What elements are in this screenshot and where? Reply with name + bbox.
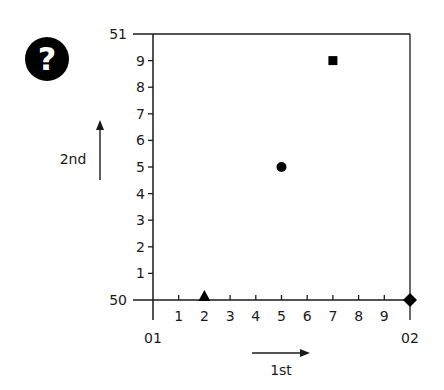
triangle-marker: [198, 290, 210, 301]
data-points: [198, 56, 417, 307]
chart: ? 5012345678951 0112345678902 2nd 1st: [0, 0, 444, 390]
x-axis-label-group: 1st: [252, 349, 310, 378]
y-tick-label: 5: [136, 159, 145, 175]
right-arrow-icon: [300, 349, 310, 357]
square-marker: [328, 56, 337, 65]
x-tick-label: 1: [174, 308, 183, 324]
x-tick-label: 7: [328, 308, 337, 324]
up-arrow-icon: [96, 120, 104, 130]
y-tick-label: 4: [136, 186, 145, 202]
y-tick-label: 3: [136, 212, 145, 228]
x-axis-label: 1st: [270, 362, 292, 378]
y-tick-label: 6: [136, 132, 145, 148]
x-tick-label: 02: [401, 330, 419, 346]
question-badge: ?: [25, 37, 69, 81]
y-tick-label: 1: [136, 265, 145, 281]
y-tick-label: 51: [109, 26, 127, 42]
x-tick-label: 4: [251, 308, 260, 324]
y-axis-label: 2nd: [60, 151, 87, 167]
x-tick-label: 9: [380, 308, 389, 324]
question-mark-glyph: ?: [38, 40, 57, 78]
plot-frame: [133, 34, 410, 320]
x-tick-label: 5: [277, 308, 286, 324]
y-tick-label: 2: [136, 239, 145, 255]
diamond-marker: [403, 293, 417, 307]
y-axis-label-group: 2nd: [60, 120, 104, 180]
x-tick-label: 6: [303, 308, 312, 324]
x-tick-label: 3: [226, 308, 235, 324]
x-tick-label: 01: [144, 330, 162, 346]
y-tick-label: 9: [136, 53, 145, 69]
y-axis-ticks: 5012345678951: [109, 26, 153, 308]
y-tick-label: 7: [136, 106, 145, 122]
y-tick-label: 50: [109, 292, 127, 308]
circle-marker: [277, 162, 287, 172]
y-tick-label: 8: [136, 79, 145, 95]
x-axis-ticks: 0112345678902: [144, 295, 419, 346]
x-tick-label: 2: [200, 308, 209, 324]
x-tick-label: 8: [354, 308, 363, 324]
